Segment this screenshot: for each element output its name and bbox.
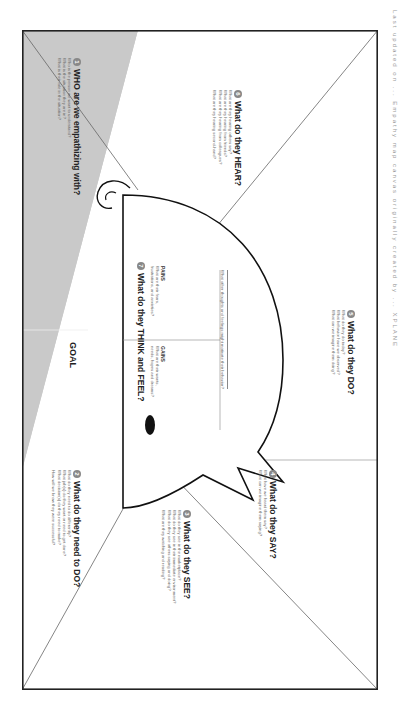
section-number-badge: 7: [137, 262, 145, 270]
question: What job(s) do they want or need to get …: [62, 470, 67, 587]
section-think-feel-title: 7What do they THINK and FEEL?: [136, 262, 146, 401]
section-number-badge: 3: [183, 510, 191, 518]
head-outline: [123, 195, 283, 508]
gains-block: GAINS What are their wants, needs, hopes…: [150, 346, 166, 397]
section-number-badge: 4: [269, 470, 277, 478]
section-see: 3What do they SEE? What do they see in t…: [161, 510, 192, 603]
question: What decision(s) do they need to make?: [56, 470, 61, 587]
caption-strip: Last updated on ... Empathy map canvas o…: [387, 0, 401, 723]
section-number-badge: 1: [73, 58, 81, 66]
pains-text: frustrations, and anxieties?: [150, 266, 155, 316]
empathy-map-canvas: 1WHO are we empathizing with? Who is the…: [22, 30, 378, 690]
section-title: WHO are we empathizing with?: [72, 69, 82, 195]
question: What are they hearing second-hand?: [212, 90, 217, 186]
gains-text: What are their wants,: [155, 346, 160, 397]
empathy-map-page: 1WHO are we empathizing with? Who is the…: [0, 0, 403, 723]
question: What is their role in the situation?: [56, 58, 61, 195]
gains-label: GAINS: [160, 346, 166, 397]
section-number-badge: 2: [73, 470, 81, 478]
section-do: 5What do they DO? What do they do today?…: [330, 310, 356, 395]
question: What can we imagine them saying?: [258, 470, 263, 559]
question: What can we imagine them doing?: [330, 310, 335, 395]
question: What behavior have we observed?: [336, 310, 341, 395]
eye-icon: [145, 415, 155, 435]
section-who: 1WHO are we empathizing with? Who is the…: [56, 58, 82, 195]
question: What do they see others saying and doing…: [166, 510, 171, 603]
gains-text: needs, hopes and dreams?: [150, 346, 155, 397]
section-number-badge: 6: [234, 90, 242, 98]
pains-block: PAINS What are their fears, frustrations…: [150, 266, 166, 316]
section-title: What do they need to DO?: [72, 481, 82, 587]
question: What are they hearing from friends?: [223, 90, 228, 186]
goal-label: GOAL: [68, 342, 78, 368]
section-say: 4What do they SAY? What have we heard th…: [258, 470, 278, 559]
question: What do they see in their immediate envi…: [172, 510, 177, 603]
question: How will we know they were successful?: [51, 470, 56, 587]
section-title: What do they SEE?: [182, 521, 192, 599]
section-title: What do they HEAR?: [233, 101, 243, 186]
think-feel-footer: What other thoughts and feelings might m…: [220, 270, 228, 389]
question: What are they hearing from colleagues?: [217, 90, 222, 186]
pains-label: PAINS: [160, 266, 166, 316]
section-hear: 6What do they HEAR? What are they hearin…: [212, 90, 243, 186]
pains-text: What are their fears,: [155, 266, 160, 316]
section-title: What do they THINK and FEEL?: [136, 273, 146, 401]
caption-text: Last updated on ... Empathy map canvas o…: [392, 10, 398, 348]
section-do-need: 2What do they need to DO? What do they n…: [51, 470, 82, 587]
section-title: What do they DO?: [346, 321, 356, 395]
section-number-badge: 5: [347, 310, 355, 318]
section-title: What do they SAY?: [268, 481, 278, 559]
